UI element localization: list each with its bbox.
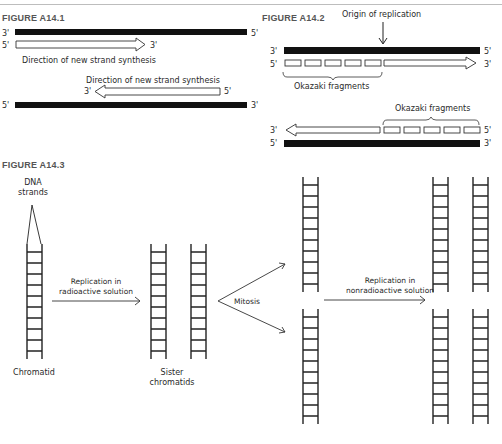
- step2-label: Replication in: [365, 276, 416, 285]
- direction-label: Direction of new strand synthesis: [22, 56, 156, 65]
- strand-end-label: 3': [150, 41, 157, 50]
- result-ladder: [433, 309, 448, 424]
- daughter-chromatid-ladder: [303, 177, 318, 292]
- strand-end-label: 5': [251, 29, 258, 38]
- okazaki-fragments-bottom: [384, 127, 480, 133]
- figure-label: FIGURE A14.3: [2, 160, 65, 170]
- sister-label: chromatids: [150, 378, 195, 387]
- figure-label: FIGURE A14.2: [262, 13, 325, 23]
- step2-label: nonradioactive solution: [346, 286, 434, 295]
- template-strand-top: [284, 47, 480, 54]
- leading-strand-arrow-left: [286, 124, 380, 136]
- chromatid-label: Chromatid: [13, 368, 55, 377]
- strand-end-label: 3': [2, 29, 9, 38]
- sister-chromatid-ladder: [151, 244, 166, 359]
- strand-end-label: 5': [224, 87, 231, 96]
- strand-end-label: 3': [270, 47, 277, 56]
- brace-top: [283, 72, 382, 80]
- direction-label: Direction of new strand synthesis: [86, 76, 220, 85]
- strand-end-label: 5': [2, 41, 9, 50]
- brace-bottom: [383, 117, 479, 125]
- diagram-canvas: FIGURE A14.1 3' 5' 5' 3' Direction of ne…: [0, 0, 502, 444]
- origin-label: Origin of replication: [342, 10, 421, 19]
- figure-a14-3: FIGURE A14.3 DNA strands Chromatid Repli…: [2, 160, 488, 424]
- step1-label: Replication in: [71, 277, 122, 286]
- strand-end-label: 5': [484, 47, 491, 56]
- result-ladder: [433, 177, 448, 292]
- dna-strands-label: DNA: [24, 178, 42, 187]
- mitosis-label: Mitosis: [234, 297, 260, 306]
- template-strand-top: [15, 29, 247, 35]
- sister-chromatid-ladder: [191, 244, 206, 359]
- new-strand-arrow-left: [95, 85, 220, 98]
- strand-end-label: 5': [270, 139, 277, 148]
- step1-label: radioactive solution: [59, 287, 133, 296]
- sister-label: Sister: [161, 368, 185, 377]
- strand-end-label: 5': [484, 126, 491, 135]
- figure-a14-2: FIGURE A14.2 Origin of replication 3' 5'…: [262, 10, 491, 148]
- dna-strands-label: strands: [18, 188, 48, 197]
- okazaki-fragments-top: [285, 60, 381, 66]
- strand-end-label: 5': [270, 60, 277, 69]
- strand-end-label: 3': [270, 126, 277, 135]
- template-strand-bottom: [284, 140, 480, 147]
- result-ladder: [473, 177, 488, 292]
- result-ladder: [473, 309, 488, 424]
- template-strand-bottom: [15, 102, 247, 108]
- strand-end-label: 3': [484, 60, 491, 69]
- leading-strand-arrow: [384, 57, 476, 69]
- figure-a14-1: FIGURE A14.1 3' 5' 5' 3' Direction of ne…: [2, 13, 258, 110]
- strand-end-label: 5': [2, 101, 9, 110]
- daughter-chromatid-ladder: [303, 309, 318, 424]
- okazaki-label: Okazaki fragments: [294, 82, 369, 91]
- okazaki-label: Okazaki fragments: [395, 104, 470, 113]
- strand-end-label: 3': [484, 139, 491, 148]
- chromatid-ladder: [27, 244, 42, 359]
- strand-end-label: 3': [84, 87, 91, 96]
- pointer-lines: [27, 205, 41, 244]
- strand-end-label: 3': [251, 101, 258, 110]
- figure-label: FIGURE A14.1: [2, 13, 65, 23]
- new-strand-arrow-right: [16, 38, 145, 51]
